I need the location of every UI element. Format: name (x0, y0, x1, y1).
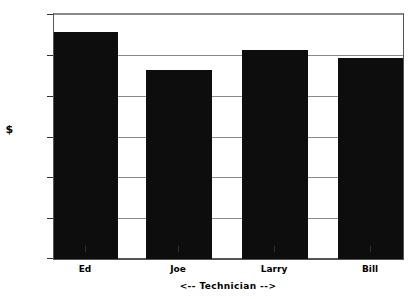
x-axis-title: <-- Technician --> (53, 281, 403, 291)
x-tick-mark (370, 246, 371, 252)
y-tick-mark (47, 96, 53, 97)
y-axis-title: $ (0, 120, 18, 140)
x-tick-mark (274, 246, 275, 252)
x-tick-mark (178, 246, 179, 252)
x-tick-label-ed: Ed (45, 264, 125, 274)
x-tick-label-bill: Bill (330, 264, 410, 274)
x-tick-label-joe: Joe (138, 264, 218, 274)
y-tick-mark (47, 55, 53, 56)
y-tick-mark (47, 258, 53, 259)
y-tick-mark (47, 177, 53, 178)
plot-area (53, 13, 404, 260)
y-tick-mark (47, 218, 53, 219)
gridline-6 (54, 14, 403, 15)
y-tick-mark (47, 14, 53, 15)
bar-joe (146, 70, 212, 259)
y-tick-mark (47, 137, 53, 138)
bar-ed (54, 32, 118, 259)
x-tick-mark (85, 246, 86, 252)
x-tick-label-larry: Larry (234, 264, 314, 274)
bar-larry (242, 50, 308, 259)
bar-bill (338, 58, 403, 259)
bar-chart: $ 6 5 4 3 2 1 0 Ed (0, 0, 410, 299)
